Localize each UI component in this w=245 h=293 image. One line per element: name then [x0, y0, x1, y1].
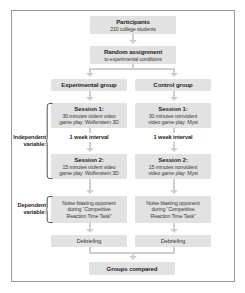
figure-frame: Participants 210 college students Random… — [11, 10, 235, 282]
node-control-dependent: Noise blasting opponent during “Competit… — [135, 196, 211, 223]
dependent-variable-line2: variable: — [12, 209, 46, 216]
arrowhead-participants-to-random — [129, 40, 137, 44]
node-control-group: Control group — [135, 79, 211, 91]
groups-compared-title: Groups compared — [107, 265, 158, 272]
brace-icon — [46, 103, 53, 179]
node-experimental-debriefing: Debriefing — [51, 235, 127, 247]
node-groups-compared: Groups compared — [89, 262, 175, 275]
arrowhead-ctl-session2-to-dependent — [170, 190, 178, 194]
random-assignment-subtitle: to experimental conditions — [104, 56, 162, 62]
flowchart-canvas: Participants 210 college students Random… — [12, 11, 234, 281]
dependent-variable-brace — [46, 196, 53, 223]
control-session1-title: Session 1: — [158, 105, 187, 112]
independent-variable-brace — [46, 103, 53, 179]
node-experimental-group: Experimental group — [51, 79, 127, 91]
connector-ctl-session1-to-interval — [173, 128, 175, 133]
experimental-interval-label: 1 week interval — [51, 134, 127, 140]
arrowhead-merge-to-groups — [129, 256, 137, 260]
control-interval-label: 1 week interval — [135, 134, 211, 140]
control-debriefing-label: Debriefing — [161, 238, 186, 245]
arrowhead-random-to-control — [170, 73, 178, 77]
experimental-group-title: Experimental group — [61, 81, 116, 88]
experimental-session2-line2: game play: Wolfenstein 3D — [59, 170, 118, 176]
control-session2-line2: video game play: Myst — [148, 170, 198, 176]
control-session2-title: Session 2: — [158, 156, 187, 163]
arrowhead-ctl-dependent-to-debriefing — [170, 229, 178, 233]
independent-variable-line1: Independent — [12, 134, 46, 141]
node-experimental-dependent: Noise blasting opponent during “Competit… — [51, 196, 127, 223]
node-experimental-session2: Session 2: 15 minutes violent video game… — [51, 154, 127, 179]
dependent-variable-label: Dependent variable: — [12, 202, 46, 216]
experimental-debriefing-label: Debriefing — [77, 238, 102, 245]
node-control-session2: Session 2: 15 minutes nonviolent video g… — [135, 154, 211, 179]
node-experimental-session1: Session 1: 30 minutes violent video game… — [51, 103, 127, 128]
node-random-assignment: Random assignment to experimental condit… — [90, 46, 176, 64]
participants-title: Participants — [116, 18, 150, 25]
dependent-variable-line1: Dependent — [12, 202, 46, 209]
node-control-session1: Session 1: 30 minutes nonviolent video g… — [135, 103, 211, 128]
experimental-session2-title: Session 2: — [74, 156, 103, 163]
random-assignment-title: Random assignment — [104, 48, 162, 55]
control-session1-line2: video game play: Myst — [148, 119, 198, 125]
connector-exp-session1-to-interval — [89, 128, 91, 133]
node-control-debriefing: Debriefing — [135, 235, 211, 247]
arrowhead-ctl-interval-to-session2 — [170, 148, 178, 152]
control-dependent-line3: Reaction Time Task” — [150, 213, 195, 219]
independent-variable-label: Independent variable: — [12, 134, 46, 148]
control-group-title: Control group — [153, 81, 192, 88]
experimental-dependent-line3: Reaction Time Task” — [66, 213, 111, 219]
node-participants: Participants 210 college students — [90, 16, 176, 34]
connector-random-split — [89, 68, 176, 70]
experimental-session1-line2: game play: Wolfenstein 3D — [59, 119, 118, 125]
arrowhead-exp-interval-to-session2 — [86, 148, 94, 152]
experimental-session1-title: Session 1: — [74, 105, 103, 112]
arrowhead-exp-dependent-to-debriefing — [86, 229, 94, 233]
independent-variable-line2: variable: — [12, 141, 46, 148]
brace-icon — [46, 196, 53, 223]
arrowhead-exp-session2-to-dependent — [86, 190, 94, 194]
participants-subtitle: 210 college students — [110, 26, 156, 32]
arrowhead-random-to-experimental — [86, 73, 94, 77]
arrowhead-control-to-session1 — [170, 97, 178, 101]
arrowhead-experimental-to-session1 — [86, 97, 94, 101]
